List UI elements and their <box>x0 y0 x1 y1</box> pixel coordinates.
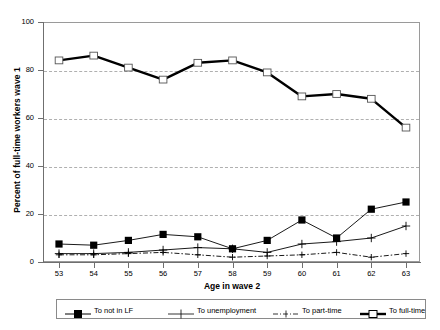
series-to-full-time <box>55 52 410 131</box>
legend-label-part-time: To part-time <box>302 306 342 315</box>
legend-item-part-time[interactable]: To part-time <box>273 303 342 317</box>
data-point <box>194 59 202 66</box>
legend-key-not-in-lf <box>65 305 91 315</box>
data-point <box>264 237 271 244</box>
data-point <box>368 95 376 102</box>
chart-container: 100 80 60 40 20 0 Percent of full-time w… <box>0 0 440 330</box>
data-point <box>402 124 410 131</box>
data-point <box>90 242 97 249</box>
data-point <box>125 64 133 71</box>
legend-item-not-in-lf[interactable]: To not in LF <box>65 303 133 317</box>
legend-key-part-time <box>273 305 299 315</box>
legend-label-unemployment: To unemployment <box>197 306 256 315</box>
data-point <box>90 52 98 59</box>
legend-item-unemployment[interactable]: To unemployment <box>168 303 256 317</box>
legend-label-not-in-lf: To not in LF <box>94 306 133 315</box>
data-point <box>298 93 306 100</box>
legend-item-full-time[interactable]: To full-time <box>360 303 425 317</box>
data-point <box>298 216 305 223</box>
legend-key-full-time <box>360 305 386 315</box>
data-point <box>368 206 375 213</box>
series-to-not-in-lf <box>55 198 409 252</box>
data-point <box>125 237 132 244</box>
series-line <box>59 202 406 249</box>
legend: To not in LF To unemployment To part-tim… <box>56 299 426 319</box>
data-point <box>55 240 62 247</box>
data-point <box>333 91 341 98</box>
series-to-unemployment <box>55 222 410 258</box>
data-point <box>55 57 63 64</box>
data-point <box>160 231 167 238</box>
series-layer <box>0 0 440 330</box>
data-point <box>159 76 167 83</box>
data-point <box>229 57 237 64</box>
series-line <box>59 56 406 128</box>
legend-label-full-time: To full-time <box>389 306 425 315</box>
data-point <box>263 69 271 76</box>
legend-key-unemployment <box>168 305 194 315</box>
data-point <box>194 233 201 240</box>
data-point <box>402 198 409 205</box>
